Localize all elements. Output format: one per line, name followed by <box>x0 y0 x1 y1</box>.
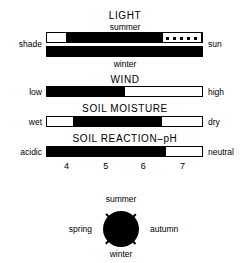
light-summer-sublabel: summer <box>110 22 141 32</box>
light-summer-segment-black <box>66 33 162 42</box>
ph-axis-tick-6: 6 <box>141 161 146 171</box>
figure-canvas: LIGHT summer shade sun winter WIND low h… <box>0 0 251 263</box>
light-section-title: LIGHT <box>109 10 141 21</box>
ph-axis-tick-7: 7 <box>180 161 185 171</box>
soil-moisture-segment-black <box>73 117 161 126</box>
light-left-label: shade <box>2 39 42 49</box>
wind-left-label: low <box>2 87 42 97</box>
light-winter-segment-black <box>47 47 202 56</box>
season-bottom-label: winter <box>110 249 133 259</box>
soil-reaction-segment-black <box>47 147 166 156</box>
soil-moisture-section-title: SOIL MOISTURE <box>82 103 168 114</box>
wind-section-title: WIND <box>110 74 139 85</box>
ph-axis-tick-5: 5 <box>103 161 108 171</box>
wind-segment-white <box>125 87 203 96</box>
soil-reaction-right-label: neutral <box>208 147 251 157</box>
soil-moisture-bar <box>46 116 203 127</box>
light-summer-bar <box>46 32 203 43</box>
soil-reaction-segment-white <box>166 147 202 156</box>
light-winter-bar <box>46 46 203 57</box>
season-left-label: spring <box>40 224 92 234</box>
ph-axis-tick-4: 4 <box>64 161 69 171</box>
soil-reaction-section-title: SOIL REACTION–pH <box>73 133 178 144</box>
wind-right-label: high <box>208 87 250 97</box>
light-summer-segment-white <box>47 33 66 42</box>
season-circle <box>98 206 144 252</box>
soil-moisture-left-label: wet <box>2 117 42 127</box>
soil-moisture-right-label: dry <box>208 117 250 127</box>
season-top-label: summer <box>106 194 137 204</box>
wind-segment-black <box>47 87 125 96</box>
light-winter-sublabel: winter <box>114 59 137 69</box>
wind-bar <box>46 86 203 97</box>
soil-moisture-segment-white-left <box>47 117 73 126</box>
light-summer-segment-dotted <box>162 33 202 42</box>
soil-reaction-left-label: acidic <box>2 147 42 157</box>
light-right-label: sun <box>208 39 250 49</box>
soil-reaction-bar <box>46 146 203 157</box>
soil-moisture-segment-white-right <box>162 117 202 126</box>
season-right-label: autumn <box>150 224 210 234</box>
